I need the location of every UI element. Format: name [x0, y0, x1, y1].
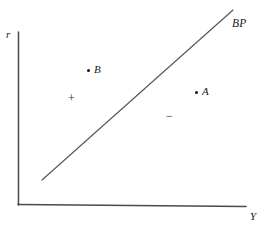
x-axis-label: Y: [250, 211, 256, 222]
bp-curve-label: BP: [232, 18, 247, 30]
bp-curve-figure: r Y BP B A + −: [0, 0, 269, 233]
point-a-marker: [195, 91, 198, 94]
x-axis-line: [18, 205, 246, 207]
deficit-region-sign: −: [166, 110, 173, 122]
figure-canvas: [0, 0, 269, 233]
point-a-label: A: [202, 86, 209, 97]
surplus-region-sign: +: [68, 92, 75, 104]
y-axis-label: r: [6, 29, 10, 40]
point-b-marker: [87, 69, 90, 72]
point-b-label: B: [94, 64, 101, 75]
